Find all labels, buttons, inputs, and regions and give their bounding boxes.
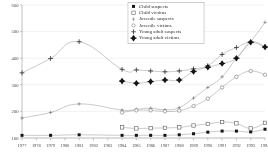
x-tick-label: 1989 (189, 143, 199, 148)
marker-filled-square (132, 5, 135, 8)
x-tick-label: 1983 (103, 143, 113, 148)
marker-open-square (235, 122, 238, 125)
marker-open-circle (135, 109, 138, 112)
marker-open-square (120, 126, 123, 129)
series-line (22, 129, 265, 135)
marker-filled-square (135, 134, 138, 137)
marker-open-circle (220, 86, 223, 89)
chart-canvas: 1002003004005006001977197819791980198119… (0, 0, 268, 159)
x-tick-label: 1980 (60, 143, 70, 148)
x-tick-label: 1982 (89, 143, 98, 148)
marker-filled-square (192, 132, 195, 135)
series-juvenile-victims (120, 69, 266, 114)
series-young-adult-victims (119, 39, 268, 87)
x-tick-label: 1985 (132, 143, 142, 148)
marker-open-square (132, 11, 135, 14)
line-chart: 1002003004005006001977197819791980198119… (0, 0, 268, 159)
marker-open-circle (120, 111, 123, 114)
x-tick-label: 1994 (261, 143, 268, 148)
x-tick-label: 1990 (203, 143, 213, 148)
marker-open-square (206, 122, 209, 125)
marker-open-square (220, 120, 223, 123)
series-line (122, 42, 265, 84)
x-tick-label: 1992 (232, 143, 241, 148)
x-tick-label: 1984 (118, 143, 128, 148)
marker-filled-square (249, 130, 252, 133)
marker-plus (77, 39, 82, 44)
marker-open-circle (263, 73, 266, 76)
marker-filled-square (221, 130, 224, 133)
y-tick-label: 400 (12, 56, 20, 61)
marker-small-cross (77, 102, 80, 105)
marker-open-circle (132, 24, 135, 27)
series-child-victims (120, 120, 266, 130)
legend-label: Juvenile victims (139, 23, 172, 28)
y-tick-label: 200 (12, 109, 20, 114)
marker-small-cross (20, 116, 23, 119)
legend-label: Child suspects (139, 4, 168, 9)
marker-open-circle (206, 97, 209, 100)
marker-open-circle (192, 104, 195, 107)
x-tick-label: 1988 (175, 143, 185, 148)
marker-plus (120, 67, 125, 72)
marker-filled-square (163, 134, 166, 137)
x-tick-label: 1977 (18, 143, 28, 148)
marker-open-circle (249, 69, 252, 72)
marker-filled-square (149, 134, 152, 137)
legend-label: Young adult victims (139, 35, 179, 40)
marker-plus (163, 69, 168, 74)
marker-open-circle (163, 110, 166, 113)
marker-plus (48, 56, 53, 61)
marker-open-circle (178, 109, 181, 112)
marker-open-square (263, 121, 266, 124)
legend-label: Child victims (139, 10, 166, 15)
marker-filled-square (49, 134, 52, 137)
marker-plus (134, 68, 139, 73)
y-tick-label: 100 (12, 136, 20, 141)
marker-plus (234, 45, 239, 50)
legend-label: Juvenile suspects (139, 16, 174, 21)
marker-filled-square (264, 128, 267, 131)
marker-open-circle (235, 75, 238, 78)
series-young-adult-suspects (20, 39, 268, 75)
marker-plus (20, 70, 25, 75)
marker-plus (177, 69, 182, 74)
marker-open-circle (149, 109, 152, 112)
marker-open-square (192, 124, 195, 127)
marker-plus (220, 52, 225, 57)
marker-filled-square (206, 131, 209, 134)
marker-open-square (149, 126, 152, 129)
legend-label: Young adult suspects (139, 29, 181, 34)
x-tick-label: 1986 (146, 143, 156, 148)
marker-open-square (135, 127, 138, 130)
y-tick-label: 300 (12, 83, 20, 88)
series-child-suspects (21, 128, 267, 137)
marker-filled-square (21, 134, 24, 137)
marker-filled-square (78, 133, 81, 136)
x-tick-label: 1987 (161, 143, 171, 148)
x-tick-label: 1978 (32, 143, 42, 148)
x-tick-label: 1993 (246, 143, 256, 148)
y-tick-label: 500 (12, 29, 20, 34)
series-line (22, 41, 265, 72)
x-tick-label: 1991 (218, 143, 227, 148)
marker-plus (148, 69, 153, 74)
marker-open-square (249, 127, 252, 130)
x-tick-label: 1979 (46, 143, 56, 148)
legend: Child suspectsChild victimsJuvenile susp… (128, 3, 204, 44)
marker-open-square (163, 126, 166, 129)
y-tick-label: 600 (12, 3, 20, 8)
marker-open-square (178, 126, 181, 129)
marker-filled-square (235, 130, 238, 133)
marker-filled-square (178, 133, 181, 136)
x-tick-label: 1981 (75, 143, 84, 148)
marker-filled-square (121, 134, 124, 137)
